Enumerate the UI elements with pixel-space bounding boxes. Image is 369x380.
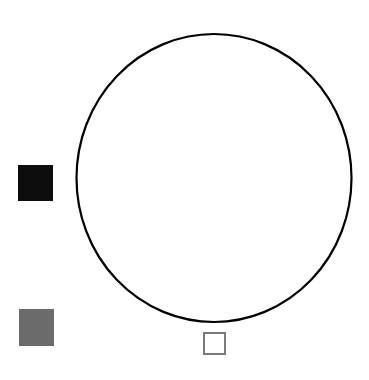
black-square bbox=[18, 165, 53, 201]
diagram-svg bbox=[0, 0, 369, 380]
diagram-canvas bbox=[0, 0, 369, 380]
large-circle bbox=[77, 34, 352, 322]
outlined-square bbox=[203, 332, 226, 355]
gray-square bbox=[19, 309, 54, 346]
